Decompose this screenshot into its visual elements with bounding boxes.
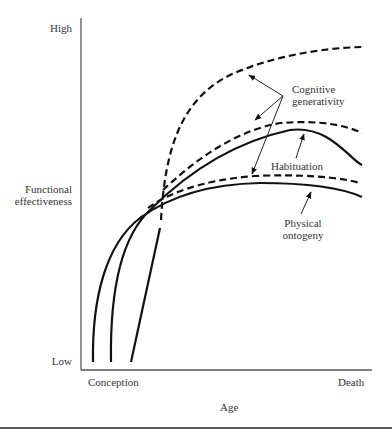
x-tick-conception: Conception (88, 376, 139, 389)
physical-ontogeny-label-line2: ontogeny (277, 229, 329, 242)
cognitive-generativity-rise (131, 228, 160, 362)
cog-arrow-top (249, 75, 283, 96)
x-tick-death: Death (338, 376, 364, 389)
y-axis-label-line2: effectiveness (0, 195, 72, 208)
habituation-label: Habituation (271, 160, 323, 173)
y-tick-high: High (20, 22, 72, 35)
physical-arrow (301, 192, 311, 214)
x-axis-label: Age (220, 401, 238, 414)
habituation-curve (111, 130, 362, 362)
physical-ontogeny-curve (93, 183, 362, 362)
chart-canvas (0, 0, 392, 437)
cog-arrow-mid (255, 96, 283, 120)
y-tick-low: Low (20, 355, 72, 368)
physical-ontogeny-dashed-curve (148, 175, 360, 208)
cognitive-generativity-label-line2: generativity (292, 95, 345, 108)
habituation-arrow (296, 134, 304, 158)
habituation-dashed-curve (163, 122, 362, 190)
